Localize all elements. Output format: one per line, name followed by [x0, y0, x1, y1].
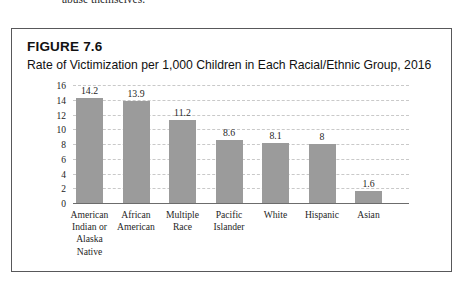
x-axis-label-line: Pacific	[203, 209, 255, 221]
x-axis-label-line: American	[110, 221, 162, 233]
x-axis-label-line: Hispanic	[296, 209, 348, 221]
bar[interactable]	[216, 140, 243, 203]
x-axis-category-label: Asian	[343, 209, 395, 221]
y-axis-tick-label: 4	[61, 170, 66, 180]
bar-value-label: 1.6	[355, 178, 382, 189]
bar[interactable]	[355, 191, 382, 203]
y-axis-tick-label: 2	[61, 184, 66, 194]
plot-area: 0246810121416 14.213.911.28.68.181.6	[73, 85, 409, 203]
x-axis-label-line: African	[110, 209, 162, 221]
x-axis-label-line: Multiple	[157, 209, 209, 221]
bar-value-label: 13.9	[123, 88, 150, 99]
x-axis-category-label: PacificIslander	[203, 209, 255, 233]
bar-value-label: 8.6	[216, 127, 243, 138]
x-axis-label-line: Asian	[343, 209, 395, 221]
figure-header: FIGURE 7.6 Rate of Victimization per 1,0…	[27, 39, 439, 74]
bar[interactable]	[309, 144, 336, 203]
bar-value-label: 8	[309, 131, 336, 142]
bar-slot: 8.1	[259, 85, 306, 203]
bar-value-label: 14.2	[76, 85, 103, 96]
x-axis-label-line: American	[64, 209, 116, 221]
bar[interactable]	[76, 98, 103, 203]
y-axis-tick-label: 10	[57, 125, 67, 135]
bar-slot: 13.9	[120, 85, 167, 203]
bar-slot: 14.2	[73, 85, 120, 203]
bar-slot: 8.6	[213, 85, 260, 203]
bar[interactable]	[123, 101, 150, 204]
x-axis-label-line: Indian or	[64, 221, 116, 233]
figure-box: FIGURE 7.6 Rate of Victimization per 1,0…	[11, 28, 452, 272]
y-axis-tick-label: 14	[57, 96, 67, 106]
x-axis-category-label: Hispanic	[296, 209, 348, 221]
x-axis-label-line: Native	[64, 246, 116, 258]
x-axis-category-label: White	[250, 209, 302, 221]
axis-baseline: 0	[73, 203, 409, 204]
bar-slot: 8	[306, 85, 353, 203]
bar-value-label: 11.2	[169, 107, 196, 118]
x-axis-category-label: AfricanAmerican	[110, 209, 162, 233]
x-axis-labels: AmericanIndian orAlaskaNativeAfricanAmer…	[73, 209, 409, 271]
y-axis-tick-label: 6	[61, 155, 66, 165]
x-axis-category-label: AmericanIndian orAlaskaNative	[64, 209, 116, 258]
page-running-text: abuse themselves.	[0, 0, 463, 12]
figure-number: FIGURE 7.6	[27, 39, 439, 55]
bar-slot: 11.2	[166, 85, 213, 203]
y-axis-tick-label: 12	[57, 111, 67, 121]
bar[interactable]	[169, 120, 196, 203]
bar-slot: 1.6	[352, 85, 399, 203]
y-axis-tick-label: 8	[61, 140, 66, 150]
bar-chart: 0246810121416 14.213.911.28.68.181.6 Ame…	[12, 85, 453, 271]
x-axis-label-line: White	[250, 209, 302, 221]
running-text-line: abuse themselves.	[62, 0, 145, 5]
figure-title: Rate of Victimization per 1,000 Children…	[27, 57, 439, 74]
x-axis-label-line: Alaska	[64, 233, 116, 245]
y-axis-tick-label: 16	[57, 81, 67, 91]
x-axis-category-label: MultipleRace	[157, 209, 209, 233]
bar-value-label: 8.1	[262, 130, 289, 141]
bar[interactable]	[262, 143, 289, 203]
x-axis-label-line: Race	[157, 221, 209, 233]
y-axis-tick-label: 0	[61, 199, 66, 209]
x-axis-label-line: Islander	[203, 221, 255, 233]
bars-group: 14.213.911.28.68.181.6	[73, 85, 409, 203]
